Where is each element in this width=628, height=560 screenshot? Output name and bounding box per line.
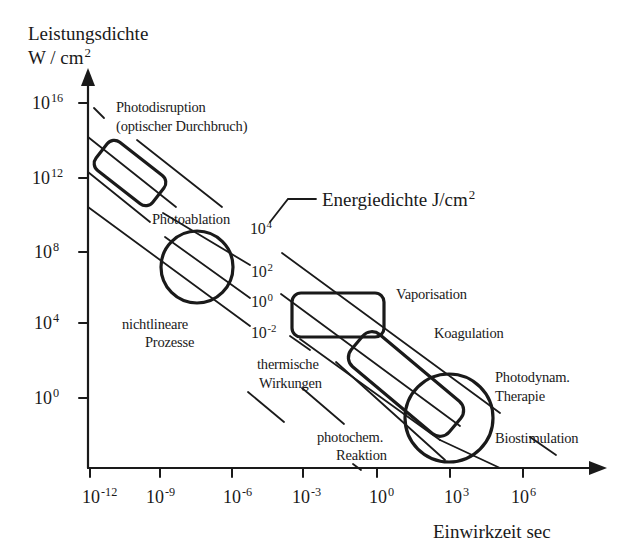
x-axis-arrow-icon	[589, 461, 607, 475]
iso-label-1e4: 104	[250, 219, 272, 238]
label-vaporisation: Vaporisation	[396, 287, 467, 302]
x-tick-label-m3: 10-3	[292, 486, 321, 507]
y-axis-unit: W / cm2	[28, 46, 91, 68]
label-reaktion: Reaktion	[336, 448, 387, 463]
label-biostimulation: Biostimulation	[495, 431, 578, 446]
iso-line-1e4	[137, 140, 222, 207]
x-ticks	[90, 468, 523, 477]
x-tick-label-m9: 10-9	[146, 486, 175, 507]
x-tick-label-0: 100	[369, 486, 394, 507]
x-tick-label-m6: 10-6	[223, 486, 252, 507]
x-tick-label-6: 106	[511, 486, 536, 507]
label-therapie: Therapie	[495, 389, 545, 404]
iso-label-1e2: 102	[251, 262, 273, 281]
region-photoablation	[161, 231, 233, 303]
y-tick-label-0: 100	[34, 387, 59, 408]
diagram-canvas	[0, 0, 628, 560]
energy-label-leader	[270, 199, 316, 222]
y-ticks	[79, 103, 88, 398]
label-optischer-durchbruch: (optischer Durchbruch)	[116, 119, 247, 134]
x-axis-title: Einwirkzeit sec	[433, 522, 551, 542]
label-wirkungen: Wirkungen	[259, 376, 322, 391]
y-axis-arrow-icon	[81, 68, 95, 86]
label-prozesse: Prozesse	[145, 335, 194, 350]
y-tick-label-16: 1016	[32, 92, 63, 113]
label-nichtlineare: nichtlineare	[122, 317, 188, 332]
energy-density-lines	[88, 108, 556, 470]
iso-label-1e-2: 10-2	[251, 323, 276, 342]
x-tick-label-3: 103	[444, 486, 469, 507]
label-photodisruption: Photodisruption	[116, 100, 206, 115]
label-photodynam: Photodynam.	[495, 370, 570, 385]
energy-density-label: Energiedichte J/cm2	[322, 188, 475, 210]
y-tick-label-8: 108	[34, 241, 59, 262]
label-koagulation: Koagulation	[434, 326, 503, 341]
region-photodisruption	[91, 137, 170, 210]
label-photochem: photochem.	[317, 430, 383, 445]
y-axis-unit-exp: 2	[85, 45, 91, 60]
y-axis-title: Leistungsdichte	[28, 24, 148, 44]
label-photoablation: Photoablation	[152, 212, 230, 227]
label-thermische: thermische	[257, 357, 319, 372]
iso-label-1e0: 100	[251, 292, 273, 311]
x-tick-label-m12: 10-12	[82, 486, 117, 507]
y-axis-unit-text: W / cm	[28, 47, 84, 68]
y-tick-label-12: 1012	[32, 167, 63, 188]
y-tick-label-4: 104	[34, 312, 59, 333]
